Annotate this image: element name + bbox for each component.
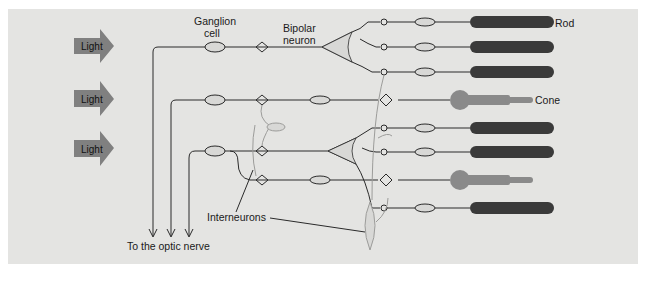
- photoreceptor-bodies: [415, 18, 435, 212]
- rod-label: Rod: [555, 17, 574, 29]
- light-arrow-label: Light: [81, 94, 103, 105]
- rod-4: [470, 122, 554, 134]
- bipolar-neuron-label: Bipolar: [283, 22, 316, 34]
- optic-nerve-label: To the optic nerve: [127, 240, 210, 252]
- cone-1: [445, 90, 533, 110]
- light-arrow-label: Light: [81, 144, 103, 155]
- rod-1: [470, 16, 554, 28]
- retina-diagram: Light Light Light Ganglion cell Bipolar …: [0, 0, 645, 281]
- light-arrow-3: Light: [74, 131, 114, 166]
- interneurons-leader-2: [270, 218, 365, 232]
- bipolar-neuron-label-2: neuron: [283, 34, 316, 46]
- cones: [445, 90, 533, 190]
- ganglion-cell-label-2: cell: [204, 27, 220, 39]
- rod-5: [470, 146, 554, 158]
- light-arrow-label: Light: [81, 41, 103, 52]
- rod-3: [470, 66, 554, 78]
- optic-nerve-fibers: [149, 47, 205, 237]
- light-arrow-1: Light: [74, 29, 114, 63]
- ganglion-cells: [205, 42, 225, 156]
- rod-2: [470, 41, 554, 53]
- rod-6: [470, 202, 554, 214]
- bipolar-cells: [310, 32, 356, 184]
- interneurons-label: Interneurons: [207, 211, 266, 223]
- ganglion-cell-label: Ganglion: [194, 15, 236, 27]
- cone-2: [445, 170, 533, 190]
- interneurons-leader-1: [236, 170, 253, 212]
- light-arrow-2: Light: [74, 81, 114, 116]
- cone-label: Cone: [535, 94, 560, 106]
- synapse-knots: [256, 42, 392, 186]
